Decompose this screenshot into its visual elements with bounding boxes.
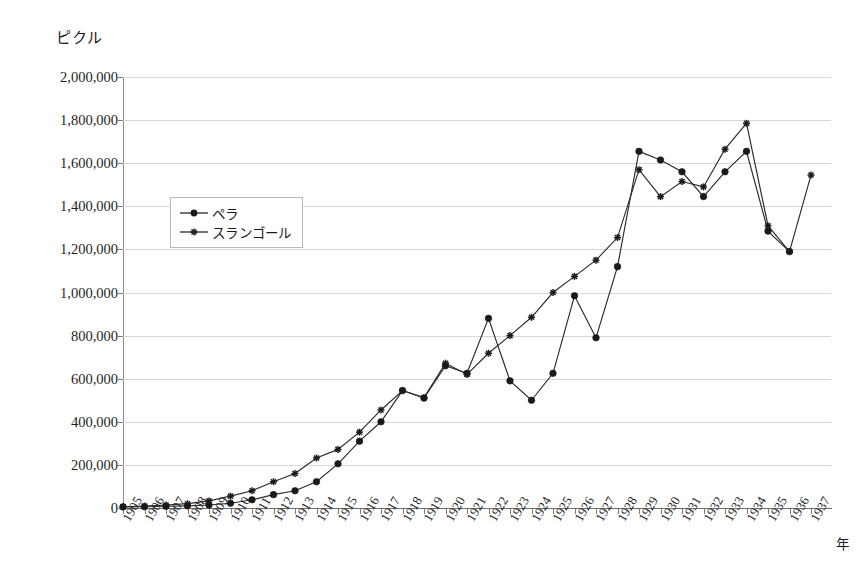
gridline — [123, 163, 831, 164]
y-axis-tick-label: 1,400,000 — [6, 199, 118, 214]
legend-marker-circle-icon — [179, 206, 209, 220]
gridline — [123, 249, 831, 250]
y-axis-tick-mark — [118, 422, 123, 423]
y-axis-tick-mark — [118, 293, 123, 294]
gridline — [123, 379, 831, 380]
y-axis-tick-label: 1,600,000 — [6, 156, 118, 171]
y-axis-tick-mark — [118, 379, 123, 380]
legend: ペラ スランゴール — [170, 197, 303, 248]
y-axis-tick-label: 1,200,000 — [6, 242, 118, 257]
y-axis-tick-mark — [118, 336, 123, 337]
y-axis-tick-label: 2,000,000 — [6, 70, 118, 85]
y-axis-tick-label: 0 — [6, 501, 118, 516]
y-axis-tick-label: 1,000,000 — [6, 286, 118, 301]
gridline — [123, 120, 831, 121]
y-axis-ticks: 0200,000400,000600,000800,0001,000,0001,… — [0, 0, 118, 587]
y-axis-tick-mark — [118, 465, 123, 466]
y-axis-tick-label: 400,000 — [6, 415, 118, 430]
x-axis-caption: 年 — [836, 533, 849, 553]
y-axis-tick-mark — [118, 120, 123, 121]
legend-item-pera: ペラ — [179, 203, 292, 222]
y-axis-tick-mark — [118, 249, 123, 250]
legend-marker-star-icon — [179, 225, 209, 239]
y-axis-tick-mark — [118, 163, 123, 164]
y-axis-tick-label: 800,000 — [6, 329, 118, 344]
gridline — [123, 77, 831, 78]
y-axis-tick-label: 600,000 — [6, 372, 118, 387]
y-axis-tick-label: 1,800,000 — [6, 113, 118, 128]
legend-label-selangor: スランゴール — [212, 222, 292, 242]
gridlines — [123, 77, 831, 508]
legend-label-pera: ペラ — [212, 203, 239, 223]
line-chart: ピクル 0200,000400,000600,000800,0001,000,0… — [0, 0, 865, 587]
gridline — [123, 293, 831, 294]
y-axis-tick-mark — [118, 77, 123, 78]
legend-item-selangor: スランゴール — [179, 222, 292, 241]
y-axis-tick-mark — [118, 206, 123, 207]
gridline — [123, 422, 831, 423]
gridline — [123, 336, 831, 337]
gridline — [123, 465, 831, 466]
y-axis-tick-label: 200,000 — [6, 458, 118, 473]
